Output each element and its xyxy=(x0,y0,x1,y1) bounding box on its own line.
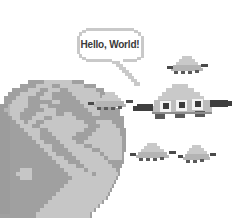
globe-shadow xyxy=(0,104,10,214)
ufo-large-undershadow xyxy=(152,112,212,114)
scene-svg: Hello, World! xyxy=(0,0,233,218)
bubble-label: Hello, World! xyxy=(81,39,140,50)
illustration-canvas: Hello, World! xyxy=(0,0,233,218)
